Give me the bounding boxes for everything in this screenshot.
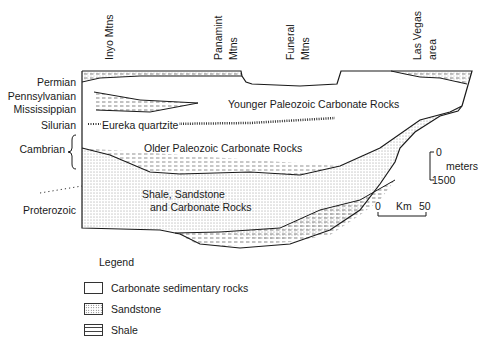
legend-item-carbonate: Carbonate sedimentary rocks (84, 282, 248, 294)
unit-eureka-quartzite: Eureka quartzite (101, 119, 179, 131)
shale-swatch-icon (84, 324, 103, 336)
sandstone-swatch-icon (84, 303, 103, 315)
horizontal-scale-left: 0 (375, 200, 381, 212)
vertical-scale-bottom: 1500 (432, 174, 455, 186)
unit-younger-paleozoic: Younger Paleozoic Carbonate Rocks (228, 98, 399, 110)
legend-label-shale: Shale (111, 324, 138, 336)
unit-older-paleozoic: Older Paleozoic Carbonate Rocks (144, 142, 302, 154)
cambrian-brace (68, 135, 76, 169)
legend-item-shale: Shale (84, 324, 138, 336)
unit-shale-sandstone-2: and Carbonate Rocks (150, 201, 252, 213)
legend-item-sandstone: Sandstone (84, 303, 161, 315)
carbonate-swatch-icon (84, 282, 103, 294)
legend-title: Legend (99, 256, 134, 268)
vertical-scale-unit: meters (446, 160, 478, 172)
horizontal-scale-right: 50 (419, 200, 431, 212)
vertical-scale-top: 0 (436, 146, 442, 158)
unit-shale-sandstone-1: Shale, Sandstone (142, 188, 225, 200)
horizontal-scale-unit: Km (396, 200, 412, 212)
legend-label-sandstone: Sandstone (111, 303, 161, 315)
legend-label-carbonate: Carbonate sedimentary rocks (111, 282, 248, 294)
cross-section-diagram (0, 0, 488, 348)
horizontal-scale-bar (378, 212, 426, 216)
